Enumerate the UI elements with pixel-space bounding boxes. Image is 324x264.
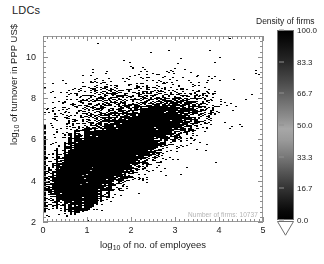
y-tick-left (43, 176, 46, 177)
y-tick-right (260, 201, 263, 202)
y-tick-left (43, 186, 46, 187)
x-tick-top (232, 36, 233, 39)
x-tick-bottom (109, 219, 110, 222)
y-tick-label: 2 (14, 217, 36, 227)
x-tick-bottom (232, 219, 233, 222)
x-tick-top (118, 36, 119, 39)
y-tick-right (260, 160, 263, 161)
x-tick-bottom (254, 219, 255, 222)
x-tick-bottom (96, 219, 97, 222)
colorbar-tick (279, 93, 284, 94)
x-tick-top (100, 36, 101, 39)
colorbar-tick-label: 16.7 (297, 184, 313, 193)
x-tick-top (210, 36, 211, 39)
y-tick-left (43, 170, 46, 171)
x-tick-bottom (74, 219, 75, 222)
colorbar-tick-label: 66.7 (297, 89, 313, 98)
y-axis-title-subscript: 10 (13, 125, 20, 133)
x-tick-bottom (52, 219, 53, 222)
y-tick-left (43, 129, 46, 130)
colorbar-tick (279, 220, 284, 221)
x-tick-bottom (197, 219, 198, 222)
x-tick-top (201, 36, 202, 39)
x-tick-bottom (65, 219, 66, 222)
x-tick-top (223, 36, 224, 39)
y-tick-left (43, 103, 46, 104)
x-tick-bottom (250, 219, 251, 222)
x-tick-bottom (83, 219, 84, 222)
colorbar-extend-min-arrow (277, 221, 294, 236)
x-tick-top (65, 36, 66, 39)
x-tick-label: 3 (172, 225, 177, 235)
x-tick-top (179, 36, 180, 39)
y-tick-left (43, 98, 48, 99)
x-tick-top (215, 36, 216, 39)
x-tick-top (250, 36, 251, 39)
x-tick-top (52, 36, 53, 39)
y-tick-right (260, 119, 263, 120)
y-tick-left (43, 52, 46, 53)
y-tick-left (43, 108, 46, 109)
figure-root: LDCs Number of firms: 10737 012345246810… (0, 0, 324, 264)
x-tick-bottom (175, 217, 176, 222)
colorbar-tick-label: 50.0 (297, 121, 313, 130)
y-tick-left (43, 119, 46, 120)
y-tick-label: 4 (14, 176, 36, 186)
y-tick-right (260, 196, 263, 197)
y-tick-right (260, 103, 263, 104)
x-tick-top (131, 36, 132, 41)
x-tick-bottom (206, 219, 207, 222)
x-tick-bottom (87, 217, 88, 222)
colorbar-title: Density of firms (256, 16, 315, 26)
colorbar-tick (279, 30, 284, 31)
x-tick-bottom (122, 219, 123, 222)
x-tick-top (197, 36, 198, 39)
colorbar-tick-label: 33.3 (297, 152, 313, 161)
y-tick-right (260, 72, 263, 73)
x-tick-bottom (105, 219, 106, 222)
y-tick-right (260, 124, 263, 125)
x-tick-bottom (237, 219, 238, 222)
x-tick-bottom (215, 219, 216, 222)
y-tick-right (260, 83, 263, 84)
x-tick-top (109, 36, 110, 39)
y-tick-right (260, 62, 263, 63)
x-tick-top (263, 36, 264, 41)
y-tick-right (260, 170, 263, 171)
x-tick-top (206, 36, 207, 39)
y-tick-left (43, 77, 46, 78)
y-tick-left (43, 191, 46, 192)
y-tick-left (43, 36, 46, 37)
x-tick-bottom (162, 219, 163, 222)
y-tick-left (43, 181, 48, 182)
x-tick-top (144, 36, 145, 39)
y-tick-right (260, 77, 263, 78)
y-tick-left (43, 93, 46, 94)
x-tick-label: 1 (84, 225, 89, 235)
x-tick-label: 0 (40, 225, 45, 235)
colorbar-tick (279, 188, 284, 189)
y-tick-right (260, 36, 263, 37)
density-scatter-canvas (44, 37, 263, 222)
y-tick-right (260, 186, 263, 187)
x-tick-bottom (113, 219, 114, 222)
y-tick-right (260, 191, 263, 192)
x-axis-title-subscript: 10 (113, 244, 121, 251)
x-tick-bottom (171, 219, 172, 222)
y-tick-left (43, 139, 48, 140)
colorbar-tick (279, 125, 284, 126)
x-tick-bottom (56, 219, 57, 222)
y-tick-left (43, 62, 46, 63)
y-tick-left (43, 165, 46, 166)
x-tick-bottom (91, 219, 92, 222)
firm-count-annotation: Number of firms: 10737 (188, 211, 258, 218)
y-tick-left (43, 46, 46, 47)
y-tick-left (43, 207, 46, 208)
y-tick-right (260, 129, 263, 130)
x-tick-bottom (223, 219, 224, 222)
y-tick-right (260, 155, 263, 156)
y-tick-right (260, 46, 263, 47)
y-tick-left (43, 222, 48, 223)
y-tick-left (43, 124, 46, 125)
y-tick-right (258, 98, 263, 99)
